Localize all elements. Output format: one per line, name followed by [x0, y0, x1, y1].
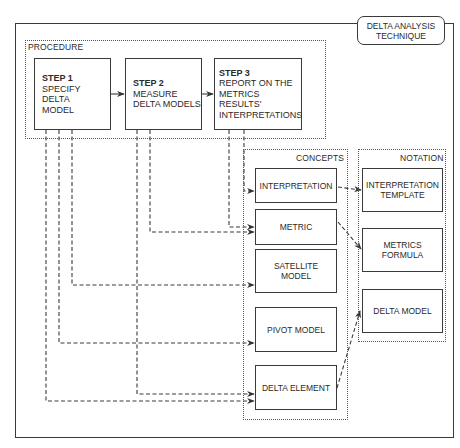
step-3-heading: STEP 3 — [219, 68, 250, 79]
concept-interpretation: INTERPRETATION — [255, 168, 337, 203]
notation-label-text: FORMULA — [382, 250, 424, 260]
diagram-title: DELTA ANALYSIS TECHNIQUE — [357, 16, 445, 45]
step-3-box: STEP 3 REPORT ON THE METRICS RESULTS' IN… — [214, 58, 302, 130]
concepts-label: CONCEPTS — [296, 153, 344, 163]
title-line-2: TECHNIQUE — [376, 31, 426, 41]
step-2-line: MEASURE — [133, 89, 178, 100]
step-1-box: STEP 1 SPECIFY DELTA MODEL — [34, 58, 111, 130]
step-2-heading: STEP 2 — [133, 78, 164, 89]
concept-satellite-model: SATELLITE MODEL — [255, 249, 337, 293]
procedure-label: PROCEDURE — [28, 42, 83, 52]
concept-label: DELTA ELEMENT — [262, 383, 330, 393]
title-line-1: DELTA ANALYSIS — [367, 21, 436, 31]
step-2-line: DELTA MODELS — [133, 99, 201, 110]
notation-label-text: INTERPRETATION — [366, 180, 439, 190]
concept-label: METRIC — [280, 222, 313, 232]
concept-metric: METRIC — [255, 209, 337, 245]
notation-label: NOTATION — [400, 153, 443, 163]
step-3-line: REPORT ON THE — [219, 78, 293, 89]
step-1-line: SPECIFY DELTA — [42, 84, 110, 105]
concept-label: MODEL — [281, 271, 311, 281]
notation-delta-model: DELTA MODEL — [362, 289, 443, 333]
concept-label: INTERPRETATION — [260, 181, 333, 191]
concept-delta-element: DELTA ELEMENT — [255, 365, 337, 410]
notation-label-text: DELTA MODEL — [373, 306, 431, 316]
notation-label-text: METRICS — [383, 240, 421, 250]
step-3-line: RESULTS' — [219, 99, 262, 110]
concept-label: PIVOT MODEL — [267, 325, 325, 335]
notation-label-text: TEMPLATE — [380, 190, 424, 200]
concept-pivot-model: PIVOT MODEL — [255, 307, 337, 352]
step-1-heading: STEP 1 — [42, 73, 73, 84]
notation-metrics-formula: METRICS FORMULA — [362, 228, 443, 272]
notation-interpretation-template: INTERPRETATION TEMPLATE — [362, 168, 443, 212]
step-3-line: INTERPRETATIONS — [219, 110, 302, 121]
step-3-line: METRICS — [219, 89, 260, 100]
step-2-box: STEP 2 MEASURE DELTA MODELS — [125, 58, 202, 130]
concept-label: SATELLITE — [274, 261, 318, 271]
step-1-line: MODEL — [42, 105, 74, 116]
